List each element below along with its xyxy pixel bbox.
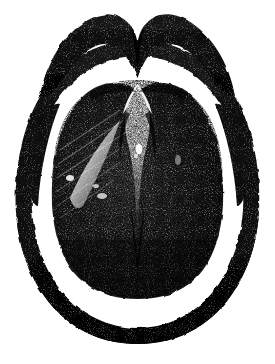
engraving-figure: Black and white antique engraving of a r… bbox=[0, 0, 275, 364]
engraving-canvas bbox=[0, 0, 275, 364]
central-highlight-speck bbox=[136, 144, 143, 154]
